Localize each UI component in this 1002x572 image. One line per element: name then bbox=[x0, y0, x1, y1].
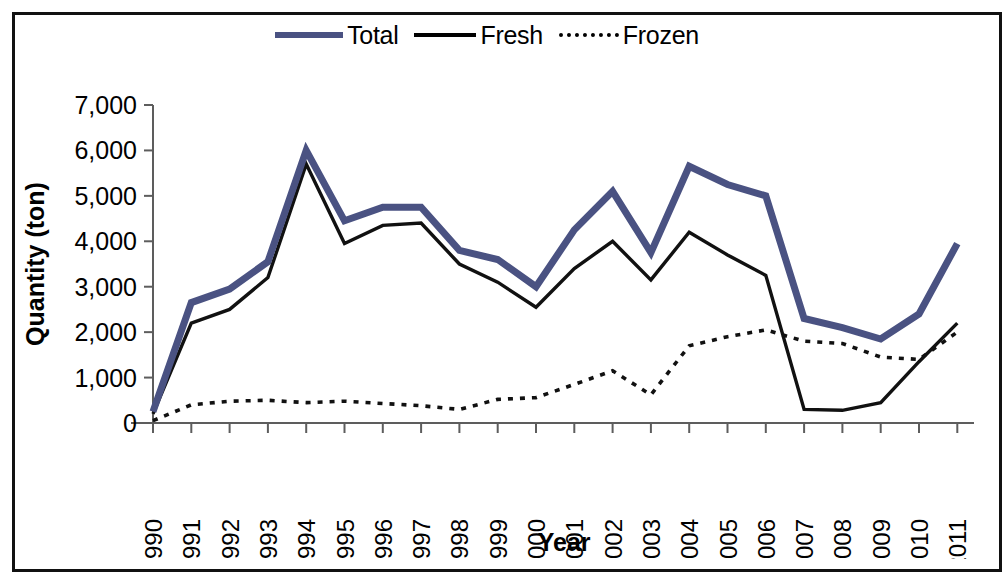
y-tick-label: 0 bbox=[123, 409, 137, 437]
x-tick-label: 2009 bbox=[868, 519, 895, 559]
y-tick-label: 3,000 bbox=[74, 273, 137, 301]
y-tick-label: 2,000 bbox=[74, 318, 137, 346]
y-axis-tick-labels: 01,0002,0003,0004,0005,0006,0007,000 bbox=[74, 91, 137, 437]
x-tick-label: 1998 bbox=[446, 519, 473, 559]
x-tick-label: 2006 bbox=[753, 519, 780, 559]
x-tick-label: 2008 bbox=[829, 519, 856, 559]
series-line-frozen bbox=[153, 330, 957, 421]
y-tick-label: 5,000 bbox=[74, 182, 137, 210]
x-tick-label: 1995 bbox=[332, 519, 359, 559]
y-tick-label: 7,000 bbox=[74, 91, 137, 119]
x-axis-title: Year bbox=[538, 528, 591, 556]
x-tick-label: 2002 bbox=[600, 519, 627, 559]
x-tick-label: 2003 bbox=[638, 519, 665, 559]
y-tick-label: 1,000 bbox=[74, 364, 137, 392]
series-line-total bbox=[153, 150, 957, 411]
x-tick-label: 2005 bbox=[715, 519, 742, 559]
y-axis-title: Quantity (ton) bbox=[21, 182, 49, 346]
x-tick-label: 2011 bbox=[944, 519, 971, 559]
x-tick-label: 1994 bbox=[293, 519, 320, 559]
x-tick-label: 2007 bbox=[791, 519, 818, 559]
x-tick-label: 1999 bbox=[485, 519, 512, 559]
x-tick-label: 1990 bbox=[140, 519, 167, 559]
x-tick-label: 1991 bbox=[178, 519, 205, 559]
y-tick-label: 4,000 bbox=[74, 227, 137, 255]
series-line-fresh bbox=[153, 164, 957, 414]
x-tick-label: 1997 bbox=[408, 519, 435, 559]
x-tick-label: 1993 bbox=[255, 519, 282, 559]
x-tick-label: 2010 bbox=[906, 519, 933, 559]
x-axis-ticks bbox=[153, 423, 957, 433]
y-tick-label: 6,000 bbox=[74, 136, 137, 164]
x-tick-label: 1992 bbox=[217, 519, 244, 559]
x-tick-label: 1996 bbox=[370, 519, 397, 559]
x-tick-label: 2004 bbox=[676, 519, 703, 559]
y-axis-ticks bbox=[144, 105, 153, 423]
